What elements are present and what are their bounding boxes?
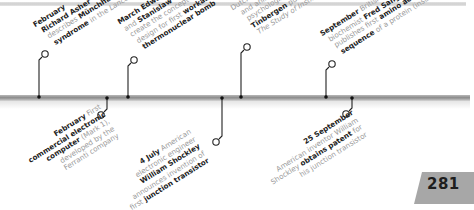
- page-number: 281: [427, 175, 460, 193]
